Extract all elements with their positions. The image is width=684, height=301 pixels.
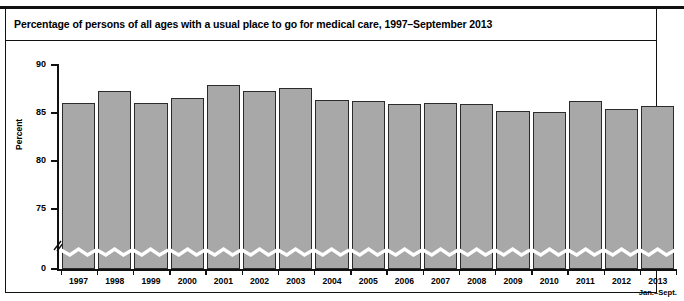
x-tick-1997 — [61, 270, 63, 275]
y-tick-85 — [51, 112, 57, 114]
x-tick-label-2013: 2013 — [637, 276, 678, 286]
x-tick-label-2010: 2010 — [529, 276, 570, 286]
bar-2004 — [315, 100, 348, 269]
x-tick-label-1998: 1998 — [94, 276, 135, 286]
bar-2011 — [569, 101, 602, 269]
x-tick-label-2012: 2012 — [601, 276, 642, 286]
x-tick-label-2011: 2011 — [565, 276, 606, 286]
bar-2010 — [533, 112, 566, 269]
x-tick-label-2002: 2002 — [239, 276, 280, 286]
y-axis-title: Percent — [14, 119, 24, 150]
x-tick-2011 — [567, 270, 569, 275]
bar-1997 — [62, 103, 95, 269]
x-tick-2002 — [242, 270, 244, 275]
bar-2001 — [207, 85, 240, 269]
y-tick-75 — [51, 208, 57, 210]
x-tick-2004 — [314, 270, 316, 275]
x-tick-label-2001: 2001 — [203, 276, 244, 286]
bar-1999 — [134, 103, 167, 269]
x-tick-2008 — [459, 270, 461, 275]
bar-2000 — [171, 98, 204, 269]
x-tick-2001 — [205, 270, 207, 275]
y-tick-label-80: 80 — [16, 155, 46, 165]
x-tick-2003 — [278, 270, 280, 275]
bar-2002 — [243, 91, 276, 269]
bar-2006 — [388, 104, 421, 269]
bar-2007 — [424, 103, 457, 269]
x-tick-label-2004: 2004 — [311, 276, 352, 286]
figure-root: Percentage of persons of all ages with a… — [0, 0, 684, 301]
x-tick-2013 — [640, 270, 642, 275]
x-tick-2010 — [531, 270, 533, 275]
y-tick-90 — [51, 64, 57, 66]
x-tick-sublabel-2013: Jan.–Sept. — [633, 288, 682, 297]
bar-2003 — [279, 88, 312, 269]
bar-1998 — [98, 91, 131, 269]
x-tick-label-2009: 2009 — [492, 276, 533, 286]
y-tick-label-0: 0 — [16, 263, 46, 273]
x-tick-2005 — [350, 270, 352, 275]
x-axis-line — [57, 269, 677, 271]
x-tick-2000 — [169, 270, 171, 275]
x-tick-label-2005: 2005 — [348, 276, 389, 286]
y-tick-80 — [51, 160, 57, 162]
x-tick-label-1999: 1999 — [130, 276, 171, 286]
x-tick-label-2006: 2006 — [384, 276, 425, 286]
bar-2009 — [496, 111, 529, 269]
y-tick-label-85: 85 — [16, 107, 46, 117]
bar-2005 — [352, 101, 385, 269]
y-tick-label-75: 75 — [16, 203, 46, 213]
x-tick-label-1997: 1997 — [58, 276, 99, 286]
x-tick-label-2008: 2008 — [456, 276, 497, 286]
x-tick-label-2007: 2007 — [420, 276, 461, 286]
bar-2012 — [605, 109, 638, 269]
y-tick-0 — [51, 268, 57, 270]
x-tick-2006 — [386, 270, 388, 275]
plot-area: Percent 075808590 1997199819992000200120… — [0, 0, 684, 301]
x-tick-1999 — [133, 270, 135, 275]
x-tick-label-2003: 2003 — [275, 276, 316, 286]
x-tick-end — [676, 270, 678, 275]
y-tick-label-90: 90 — [16, 59, 46, 69]
bar-2008 — [460, 104, 493, 269]
x-tick-1998 — [97, 270, 99, 275]
x-tick-2012 — [604, 270, 606, 275]
bar-2013 — [641, 106, 674, 269]
x-tick-2007 — [423, 270, 425, 275]
x-tick-label-2000: 2000 — [167, 276, 208, 286]
x-tick-2009 — [495, 270, 497, 275]
